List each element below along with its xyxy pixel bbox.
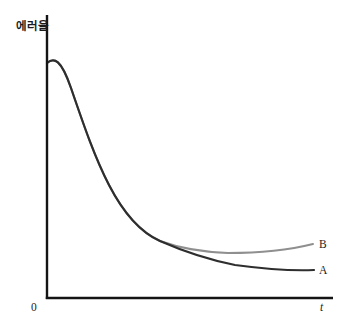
chart-canvas: 에러율 0 t B A <box>0 0 348 325</box>
curve-b <box>47 60 313 253</box>
curve-a <box>47 60 314 270</box>
x-axis-label: t <box>320 301 324 313</box>
curve-a-label: A <box>319 264 328 276</box>
y-axis-label: 에러율 <box>16 19 49 32</box>
curve-b-label: B <box>319 238 327 250</box>
error-rate-chart: 에러율 0 t B A <box>0 0 348 325</box>
origin-label: 0 <box>31 301 37 313</box>
